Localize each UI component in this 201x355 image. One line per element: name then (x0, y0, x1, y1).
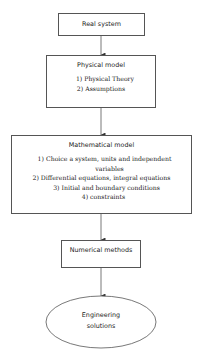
engineering-solutions-line: solutions (46, 321, 156, 332)
mathematical-model-item: 3) Initial and boundary conditions (12, 183, 191, 193)
mathematical-model-item: 1) Choice a system, units and independen… (12, 154, 191, 164)
mathematical-model-item: 4) constraints (12, 192, 191, 202)
mathematical-model-item: 2) Differential equations, integral equa… (12, 173, 191, 183)
mathematical-model-box: Mathematical model 1) Choice a system, u… (11, 135, 192, 214)
physical-model-box: Physical model 1) Physical Theory 2) Ass… (46, 55, 156, 108)
physical-model-item: 2) Assumptions (47, 84, 155, 94)
numerical-methods-box: Numerical methods (61, 240, 141, 268)
physical-model-title: Physical model (47, 60, 155, 71)
engineering-solutions-label: Engineering solutions (46, 310, 156, 332)
mathematical-model-item: variables (12, 164, 191, 174)
real-system-box: Real system (58, 13, 145, 36)
engineering-solutions-line: Engineering (46, 310, 156, 321)
mathematical-model-title: Mathematical model (12, 140, 191, 151)
numerical-methods-label: Numerical methods (62, 245, 140, 255)
real-system-label: Real system (59, 14, 144, 35)
physical-model-item: 1) Physical Theory (47, 74, 155, 84)
